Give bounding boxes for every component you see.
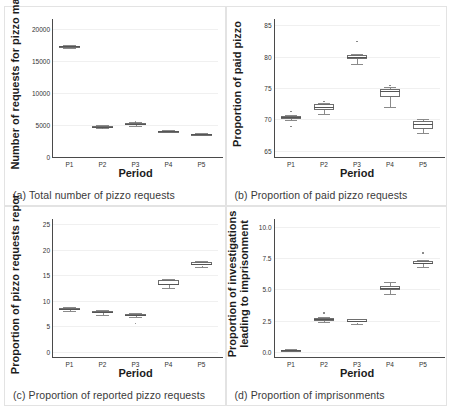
x-tick-label-p2: P2 <box>320 161 328 168</box>
pizzo-boxplot-figure: Number of requests for pizzo ma050001000… <box>0 0 451 413</box>
y-tick-label: 2.5 <box>262 317 271 324</box>
plot-area-b <box>275 19 440 157</box>
x-axis-title-c: Period <box>118 367 152 379</box>
median-line <box>413 124 433 125</box>
plot-a: Number of requests for pizzo ma050001000… <box>5 7 225 179</box>
y-tick-label: 0 <box>46 348 50 355</box>
panel-caption-c: (c) Proportion of reported pizzo request… <box>13 389 221 401</box>
y-tick-label: 10000 <box>32 89 50 96</box>
y-axis-title-text: Proportion of pizzo requests repor <box>10 194 22 374</box>
y-axis-title-d: Proportion of investigations leading to … <box>227 207 249 361</box>
boxplot-p5 <box>53 19 218 157</box>
y-axis-line-d <box>274 219 275 357</box>
x-tick-label-p1: P1 <box>287 161 295 168</box>
x-tick-label-p4: P4 <box>386 361 394 368</box>
x-tick-label-p2: P2 <box>99 361 107 368</box>
x-axis-title-b: Period <box>340 167 374 179</box>
y-tick-labels-b: 6570758085 <box>248 19 274 157</box>
cap-lower <box>417 133 429 134</box>
y-tick-label: 5000 <box>36 121 50 128</box>
boxplot-p5 <box>275 19 440 157</box>
y-axis-line-c <box>52 219 53 357</box>
panel-caption-b: (b) Proportion of paid pizzo requests <box>235 189 443 201</box>
y-axis-title-text: Proportion of investigations leading to … <box>226 211 249 358</box>
x-tick-label-p5: P5 <box>198 361 206 368</box>
y-tick-label: 10 <box>43 297 50 304</box>
y-axis-line-a <box>52 19 53 157</box>
panel-a: Number of requests for pizzo ma050001000… <box>4 6 226 206</box>
y-tick-label: 75 <box>264 85 271 92</box>
y-tick-label: 80 <box>264 53 271 60</box>
median-line <box>413 263 433 264</box>
y-tick-label: 85 <box>264 22 271 29</box>
x-axis-line-c <box>52 357 223 358</box>
x-tick-label-p5: P5 <box>198 161 206 168</box>
plot-area-d <box>275 219 440 357</box>
outlier-point <box>422 252 423 253</box>
x-tick-label-p5: P5 <box>419 161 427 168</box>
y-tick-label: 15000 <box>32 57 50 64</box>
boxplot-p5 <box>275 219 440 357</box>
y-tick-label: 0 <box>46 154 50 161</box>
x-axis-line-b <box>274 157 445 158</box>
plot-b: Proportion of paid pizzo6570758085P1P2P3… <box>227 7 447 179</box>
cap-lower <box>417 267 429 268</box>
x-axis-line-a <box>52 157 223 158</box>
median-line <box>191 134 211 135</box>
y-axis-line-b <box>274 19 275 157</box>
x-axis-title-d: Period <box>340 367 374 379</box>
y-axis-title-text: Number of requests for pizzo ma <box>10 0 22 170</box>
x-tick-label-p2: P2 <box>320 361 328 368</box>
x-tick-label-p4: P4 <box>165 361 173 368</box>
y-tick-label: 70 <box>264 116 271 123</box>
panel-c: Proportion of pizzo requests repor051015… <box>4 206 226 406</box>
y-axis-title-text: Proportion of paid pizzo <box>232 21 244 147</box>
x-tick-label-p4: P4 <box>165 161 173 168</box>
y-tick-label: 5.0 <box>262 286 271 293</box>
y-tick-label: 10.0 <box>259 223 272 230</box>
x-tick-label-p1: P1 <box>287 361 295 368</box>
y-tick-label: 5 <box>46 323 50 330</box>
y-tick-label: 20000 <box>32 25 50 32</box>
plot-area-c <box>53 219 218 357</box>
x-tick-label-p2: P2 <box>99 161 107 168</box>
y-tick-labels-c: 0510152025 <box>26 219 52 357</box>
plot-area-a <box>53 19 218 157</box>
x-axis-title-a: Period <box>118 167 152 179</box>
x-axis-line-d <box>274 357 445 358</box>
y-tick-label: 25 <box>43 221 50 228</box>
y-tick-labels-d: 0.02.55.07.510.0 <box>248 219 274 357</box>
y-tick-labels-a: 05000100001500020000 <box>26 19 52 157</box>
x-tick-label-p1: P1 <box>66 361 74 368</box>
x-tick-label-p4: P4 <box>386 161 394 168</box>
panel-caption-d: (d) Proportion of imprisonments <box>235 389 443 401</box>
panel-grid: Number of requests for pizzo ma050001000… <box>4 6 447 406</box>
boxplot-p5 <box>53 219 218 357</box>
y-tick-label: 65 <box>264 147 271 154</box>
y-tick-label: 7.5 <box>262 254 271 261</box>
median-line <box>191 264 211 265</box>
x-tick-label-p5: P5 <box>419 361 427 368</box>
panel-caption-a: (a) Total number of pizzo requests <box>13 189 221 201</box>
panel-b: Proportion of paid pizzo6570758085P1P2P3… <box>226 6 448 206</box>
plot-c: Proportion of pizzo requests repor051015… <box>5 207 225 379</box>
y-axis-title-c: Proportion of pizzo requests repor <box>5 207 27 361</box>
y-tick-label: 0.0 <box>262 348 271 355</box>
y-tick-label: 15 <box>43 272 50 279</box>
y-axis-title-b: Proportion of paid pizzo <box>227 7 249 161</box>
y-tick-label: 20 <box>43 246 50 253</box>
x-tick-label-p1: P1 <box>66 161 74 168</box>
box-iqr <box>413 121 433 130</box>
plot-d: Proportion of investigations leading to … <box>227 207 447 379</box>
cap-lower <box>195 267 207 268</box>
panel-d: Proportion of investigations leading to … <box>226 206 448 406</box>
y-axis-title-a: Number of requests for pizzo ma <box>5 7 27 161</box>
